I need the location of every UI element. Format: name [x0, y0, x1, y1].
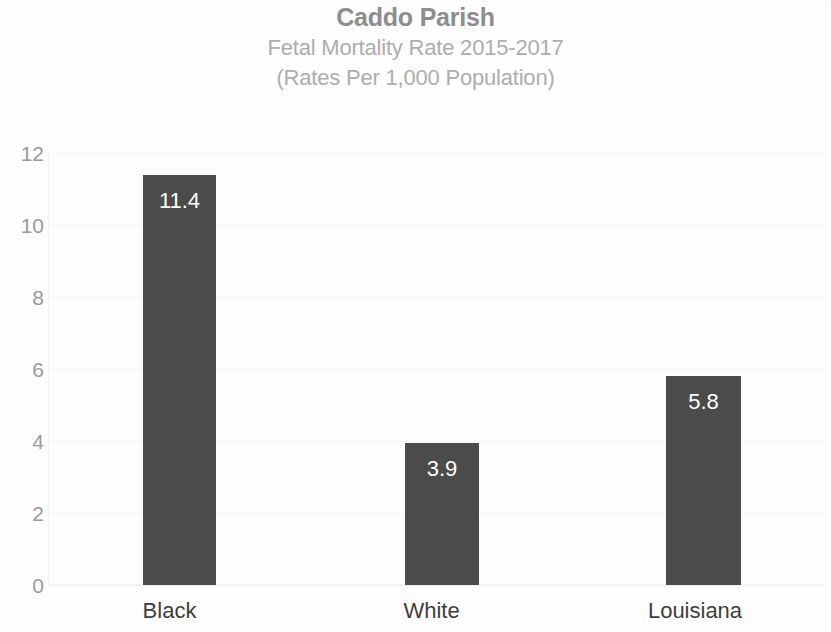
x-axis-label-black: Black: [82, 598, 257, 624]
y-axis-tick-label: 2: [0, 503, 44, 524]
chart-subtitle-line-1: Fetal Mortality Rate 2015-2017: [0, 33, 831, 63]
y-axis-tick-label: 4: [0, 431, 44, 452]
chart-title: Caddo Parish: [0, 2, 831, 33]
gridline: [49, 153, 823, 154]
bar-value-label: 11.4: [143, 189, 216, 213]
chart-title-block: Caddo Parish Fetal Mortality Rate 2015-2…: [0, 2, 831, 93]
y-axis-tick-label: 0: [0, 575, 44, 596]
plot-area: 11.4 3.9 5.8: [48, 153, 823, 585]
x-axis-baseline: [48, 585, 823, 586]
x-axis-label-white: White: [344, 598, 519, 624]
bar-white: 3.9: [405, 443, 479, 585]
y-axis-tick-label: 6: [0, 359, 44, 380]
y-axis-tick-label: 10: [0, 215, 44, 236]
y-axis-tick-label: 8: [0, 287, 44, 308]
bar-chart: Caddo Parish Fetal Mortality Rate 2015-2…: [0, 0, 831, 632]
chart-subtitle-line-2: (Rates Per 1,000 Population): [0, 63, 831, 93]
y-axis: 12 10 8 6 4 2 0: [0, 0, 44, 632]
x-axis-label-louisiana: Louisiana: [605, 598, 785, 624]
bar-value-label: 3.9: [405, 457, 479, 481]
bar-value-label: 5.8: [666, 390, 741, 414]
y-axis-tick-label: 12: [0, 143, 44, 164]
bar-louisiana: 5.8: [666, 376, 741, 585]
bar-black: 11.4: [143, 175, 216, 585]
